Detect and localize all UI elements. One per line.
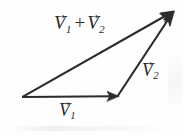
label-v2-vector: →V2 [142, 61, 159, 81]
resultant-v2-subscript: 2 [99, 23, 105, 35]
vector-addition-figure: →V1+→V2 →V2 →V1 [0, 0, 184, 137]
arrow-accent-icon: → [141, 54, 155, 68]
vector-origin-vertex [22, 96, 24, 98]
label-resultant-vector: →V1+→V2 [54, 13, 105, 35]
resultant-v1-subscript: 1 [66, 23, 72, 35]
arrow-accent-icon: → [86, 6, 101, 21]
arrow-accent-icon: → [53, 6, 68, 21]
v2-subscript: 2 [153, 69, 158, 81]
v2-symbol: →V [142, 61, 153, 79]
v1-symbol: →V [59, 101, 70, 119]
v1-subscript: 1 [70, 109, 75, 121]
resultant-v1-symbol: →V [54, 13, 66, 32]
label-v1-vector: →V1 [59, 101, 76, 121]
arrow-accent-icon: → [58, 94, 72, 108]
plus-operator: + [75, 12, 86, 33]
resultant-v2-symbol: →V [87, 13, 99, 32]
